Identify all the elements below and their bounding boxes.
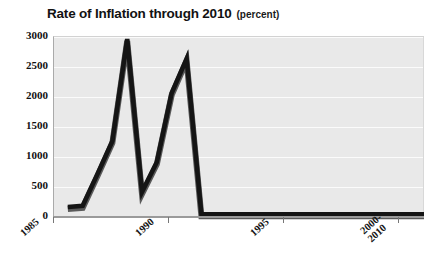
y-tick-0: 0: [0, 209, 48, 221]
x-tick-mark-1985: [53, 217, 54, 223]
y-tick-500: 500: [0, 179, 48, 191]
y-tick-3000: 3000: [0, 29, 48, 41]
y-tick-2000: 2000: [0, 89, 48, 101]
y-tick-1000: 1000: [0, 149, 48, 161]
x-tick-mark-1995: [283, 217, 284, 223]
x-tick-mark-2000: [398, 217, 399, 223]
y-tick-1500: 1500: [0, 119, 48, 131]
y-tick-2500: 2500: [0, 59, 48, 71]
inflation-chart: Rate of Inflation through 2010 (percent)…: [0, 0, 439, 267]
x-tick-mark-1990: [168, 217, 169, 223]
